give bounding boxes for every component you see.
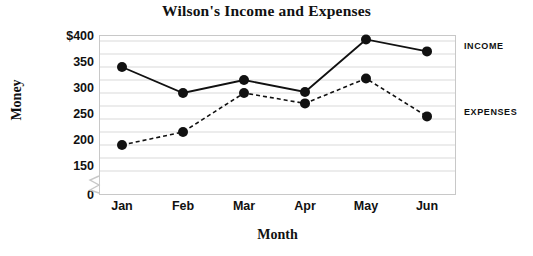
data-point: [300, 87, 310, 97]
x-tick-label: May: [336, 199, 396, 213]
series-line: [122, 78, 427, 145]
series-line: [122, 39, 427, 93]
legend-label-income: INCOME: [464, 41, 504, 51]
gridlines: [100, 41, 455, 171]
axis-break-zigzag: [90, 176, 99, 193]
legend-label-expenses: EXPENSES: [464, 107, 517, 117]
chart-plot-svg: [0, 0, 533, 256]
data-point: [361, 73, 371, 83]
y-axis-break-symbol: [90, 176, 99, 193]
data-point: [178, 127, 188, 137]
data-point: [239, 88, 249, 98]
data-point: [239, 75, 249, 85]
x-axis-title: Month: [99, 227, 456, 243]
data-point: [178, 88, 188, 98]
data-point: [117, 140, 127, 150]
data-point: [361, 34, 371, 44]
data-series-group: [117, 34, 432, 150]
series-income: [117, 34, 432, 98]
x-tick-label: Mar: [214, 199, 274, 213]
data-point: [117, 62, 127, 72]
x-tick-label: Jan: [92, 199, 152, 213]
x-tick-label: Feb: [153, 199, 213, 213]
chart-container: Wilson's Income and Expenses Money $400 …: [0, 0, 533, 256]
x-tick-label: Jun: [397, 199, 457, 213]
x-tick-label: Apr: [275, 199, 335, 213]
data-point: [300, 98, 310, 108]
data-point: [422, 46, 432, 56]
data-point: [422, 111, 432, 121]
